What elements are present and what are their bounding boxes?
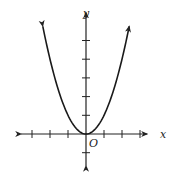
x-axis-label: x [160,128,167,141]
origin-label: O [89,137,98,150]
y-axis-label: y [82,7,90,20]
parabola-chart: x y O [0,0,173,180]
